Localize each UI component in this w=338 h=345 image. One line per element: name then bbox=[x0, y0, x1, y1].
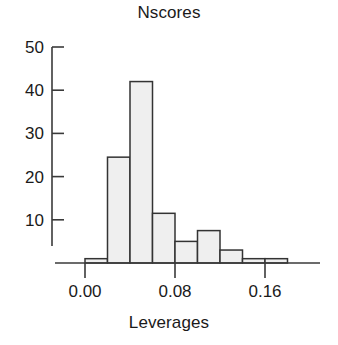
y-tick-label: 30 bbox=[25, 124, 44, 143]
histogram-bar bbox=[108, 157, 131, 263]
plot-area: 1020304050 0.000.080.16 bbox=[0, 0, 338, 345]
y-axis-ticks: 1020304050 bbox=[25, 38, 64, 230]
bars-group bbox=[85, 82, 288, 263]
histogram-figure: Nscores 1020304050 0.000.080.16 Leverage… bbox=[0, 0, 338, 345]
y-tick-label: 10 bbox=[25, 211, 44, 230]
x-tick-label: 0.00 bbox=[68, 282, 101, 301]
x-axis-label: Leverages bbox=[0, 313, 338, 333]
histogram-bar bbox=[220, 250, 243, 263]
y-tick-label: 50 bbox=[25, 38, 44, 57]
x-axis-ticks: 0.000.080.16 bbox=[68, 263, 281, 301]
y-tick-label: 20 bbox=[25, 168, 44, 187]
x-tick-label: 0.08 bbox=[158, 282, 191, 301]
x-tick-label: 0.16 bbox=[248, 282, 281, 301]
histogram-bar bbox=[153, 213, 176, 263]
histogram-bar bbox=[198, 231, 221, 263]
histogram-bar bbox=[130, 82, 153, 263]
histogram-bar bbox=[175, 241, 198, 263]
y-tick-label: 40 bbox=[25, 81, 44, 100]
